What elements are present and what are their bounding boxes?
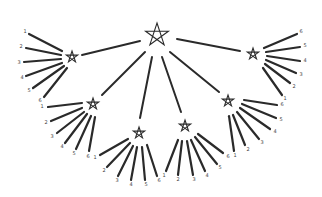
star-b-ray-label-5: 5: [72, 150, 75, 156]
star-c-ray-1: [100, 139, 128, 155]
star-c-ray-4: [131, 147, 137, 180]
star-c-ray-5: [142, 147, 145, 180]
star-f-ray-3: [266, 60, 296, 73]
star-e-ray-label-6: 6: [280, 101, 283, 107]
star-f-icon: [247, 48, 258, 59]
star-e-icon: [222, 95, 233, 106]
star-c-ray-label-4: 4: [129, 181, 132, 187]
star-e-ray-label-3: 3: [260, 139, 263, 145]
edge-root-to-star-c: [140, 57, 152, 118]
ray-labels: 123456123456123456123456123456123456: [17, 28, 306, 187]
root-edges: [82, 39, 240, 118]
edge-root-to-star-d: [162, 57, 181, 112]
star-a-ray-2: [26, 48, 61, 55]
star-e-ray-label-2: 2: [246, 146, 249, 152]
star-d-ray-label-2: 2: [176, 176, 179, 182]
star-d-ray-6: [198, 134, 223, 153]
star-d-ray-label-1: 1: [162, 172, 165, 178]
star-f-ray-1: [263, 68, 282, 95]
star-c-ray-label-6: 6: [157, 177, 160, 183]
star-b-ray-2: [51, 108, 82, 121]
star-a-ray-label-5: 5: [27, 87, 30, 93]
star-a-ray-label-2: 2: [19, 43, 22, 49]
star-f-ray-label-3: 3: [299, 71, 302, 77]
child-rays: [24, 34, 300, 180]
star-d-ray-label-3: 3: [192, 176, 195, 182]
star-d-ray-2: [178, 141, 182, 175]
star-e-ray-4: [240, 108, 270, 129]
star-b-ray-label-3: 3: [50, 133, 53, 139]
star-d-ray-4: [191, 140, 205, 171]
star-e-ray-1: [229, 116, 234, 151]
star-c-icon: [133, 127, 144, 138]
star-d-icon: [179, 120, 190, 131]
star-b-ray-label-2: 2: [44, 119, 47, 125]
edge-root-to-star-f: [177, 39, 240, 51]
root-star-icon: [146, 23, 169, 45]
star-e-ray-label-1: 1: [233, 152, 236, 158]
star-f-ray-4: [267, 56, 300, 61]
star-b-ray-1: [48, 103, 82, 107]
star-c-ray-label-1: 1: [93, 154, 96, 160]
star-f-ray-label-6: 6: [299, 28, 302, 34]
star-f-ray-label-5: 5: [303, 42, 306, 48]
edge-root-to-star-b: [102, 52, 145, 95]
star-e-ray-6: [244, 100, 277, 105]
star-b-ray-label-6: 6: [86, 153, 89, 159]
star-b-ray-label-4: 4: [60, 143, 63, 149]
star-c-ray-label-2: 2: [102, 167, 105, 173]
star-c-ray-label-3: 3: [115, 177, 118, 183]
star-b-ray-5: [76, 116, 91, 149]
star-f-ray-label-4: 4: [303, 57, 306, 63]
star-f-ray-label-1: 1: [283, 95, 286, 101]
star-c-ray-2: [107, 143, 130, 167]
star-d-ray-label-6: 6: [226, 153, 229, 159]
star-e-ray-5: [242, 104, 276, 118]
star-a-ray-label-4: 4: [20, 74, 23, 80]
star-a-ray-4: [26, 63, 62, 76]
star-a-ray-label-1: 1: [23, 28, 26, 34]
star-f-ray-6: [264, 34, 297, 48]
star-a-ray-3: [24, 59, 61, 62]
star-f-ray-5: [266, 47, 300, 52]
star-tree-diagram: 123456123456123456123456123456123456: [0, 0, 322, 197]
star-d-ray-3: [187, 141, 193, 175]
star-a-ray-label-3: 3: [17, 59, 20, 65]
star-d-ray-label-5: 5: [218, 164, 221, 170]
star-b-ray-6: [89, 117, 95, 151]
star-b-ray-label-1: 1: [40, 103, 43, 109]
star-b-icon: [87, 98, 98, 109]
star-a-icon: [66, 51, 77, 62]
star-c-ray-6: [147, 145, 157, 176]
star-c-ray-3: [118, 146, 133, 176]
star-d-ray-1: [166, 140, 178, 171]
star-e-ray-label-5: 5: [279, 116, 282, 122]
star-f-ray-label-2: 2: [292, 83, 295, 89]
star-a-ray-1: [29, 34, 62, 51]
star-e-ray-label-4: 4: [273, 128, 276, 134]
star-c-ray-label-5: 5: [144, 181, 147, 187]
edge-root-to-star-a: [82, 41, 140, 55]
diagram-svg: 123456123456123456123456123456123456: [0, 0, 322, 197]
edge-root-to-star-e: [170, 52, 219, 92]
star-d-ray-label-4: 4: [205, 172, 208, 178]
star-f-ray-2: [265, 64, 290, 83]
